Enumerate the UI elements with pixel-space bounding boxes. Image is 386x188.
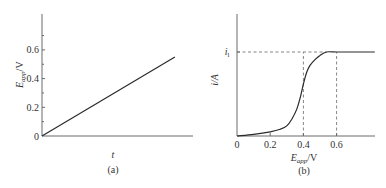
figure: 00.20.40.6 Eapp/V t (a) 00.20.40.6 il i/… <box>0 0 386 188</box>
panel-a-y-tick-label: 0.6 <box>27 44 40 55</box>
panel-a-y-tick-label: 0.4 <box>27 73 40 84</box>
panel-b-panel-label: (b) <box>298 165 310 177</box>
panel-b-x-tick-label: 0.2 <box>264 139 277 150</box>
panel-a-panel-label: (a) <box>107 164 118 176</box>
panel-a-series-line <box>42 57 175 136</box>
panel-a-y-tick-label: 0 <box>34 131 39 142</box>
panel-a-ylabel: Eapp/V <box>14 61 27 89</box>
panel-b-series-line <box>237 52 375 136</box>
panel-b-xlabel: Eapp/V <box>290 152 318 165</box>
panel-b-x-tick-label: 0.4 <box>297 139 310 150</box>
panel-a-xlabel: t <box>112 149 115 160</box>
panel-b-x-tick-label: 0.6 <box>330 139 343 150</box>
panel-a-y-tick-label: 0.2 <box>27 102 40 113</box>
panel-b-ylabel: i/A <box>209 73 220 86</box>
panel-b-il-label: il <box>225 46 230 59</box>
panel-b: 00.20.40.6 il i/A Eapp/V (b) <box>209 14 375 177</box>
panel-a: 00.20.40.6 Eapp/V t (a) <box>14 14 193 176</box>
panel-b-x-tick-label: 0 <box>235 139 240 150</box>
